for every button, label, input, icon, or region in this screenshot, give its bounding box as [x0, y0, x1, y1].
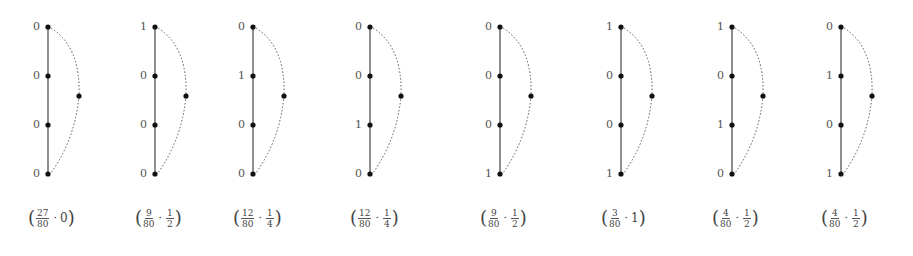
- diagram-caption: ( 3 80 ·1): [601, 207, 646, 229]
- close-paren: ): [68, 207, 75, 229]
- numerator: 9: [145, 208, 153, 219]
- node-label: 0: [135, 119, 147, 131]
- diagram-caption: ( 12 80 · 1 4 ): [350, 207, 399, 229]
- open-paren: (: [135, 207, 142, 229]
- node-4: [152, 171, 157, 176]
- open-paren: (: [480, 207, 487, 229]
- diagram-caption: ( 4 80 · 1 2 ): [712, 207, 759, 229]
- node-2: [729, 73, 734, 78]
- node-3: [152, 122, 157, 127]
- node-4: [838, 171, 843, 176]
- node-label: 1: [480, 168, 492, 180]
- denominator: 4: [384, 219, 390, 229]
- separator: ·: [624, 212, 628, 225]
- diagram-caption: ( 4 80 · 1 2 ): [821, 207, 868, 229]
- path-diagram-5: 0001( 9 80 · 1 2 ): [470, 0, 580, 256]
- value-fraction: 1 2: [166, 208, 174, 229]
- path-diagram-2: 1000( 9 80 · 1 2 ): [125, 0, 235, 256]
- dotted-arc: [373, 28, 401, 173]
- node-label: 0: [233, 119, 245, 131]
- close-paren: ): [520, 207, 527, 229]
- node-1: [497, 24, 502, 29]
- separator: ·: [53, 212, 57, 225]
- node-label: 1: [821, 70, 833, 82]
- node-label: 0: [712, 70, 724, 82]
- probability-fraction: 12 80: [358, 208, 371, 229]
- node-label: 1: [350, 119, 362, 131]
- close-paren: ): [639, 207, 646, 229]
- node-4: [729, 171, 734, 176]
- open-paren: (: [601, 207, 608, 229]
- node-2: [45, 73, 50, 78]
- side-node: [76, 93, 81, 98]
- node-label: 1: [601, 21, 613, 33]
- numerator: 12: [241, 208, 254, 219]
- path-diagram-1: 0000( 27 80 ·0): [18, 0, 128, 256]
- denominator: 80: [720, 219, 731, 229]
- node-3: [729, 122, 734, 127]
- denominator: 2: [853, 219, 859, 229]
- separator: ·: [503, 212, 507, 225]
- denominator: 80: [829, 219, 840, 229]
- node-label: 1: [821, 168, 833, 180]
- separator: ·: [258, 212, 262, 225]
- node-label: 0: [28, 119, 40, 131]
- value-fraction: 1 4: [383, 208, 391, 229]
- open-paren: (: [28, 207, 35, 229]
- denominator: 2: [167, 219, 173, 229]
- dotted-arc: [158, 28, 186, 173]
- node-label: 0: [28, 21, 40, 33]
- node-4: [618, 171, 623, 176]
- denominator: 80: [37, 219, 48, 229]
- node-label: 0: [712, 168, 724, 180]
- dotted-arc: [735, 28, 763, 173]
- diagram-caption: ( 9 80 · 1 2 ): [480, 207, 527, 229]
- probability-fraction: 9 80: [143, 208, 154, 229]
- separator: ·: [375, 212, 379, 225]
- node-label: 0: [480, 21, 492, 33]
- node-label: 1: [712, 21, 724, 33]
- node-2: [250, 73, 255, 78]
- node-label: 1: [135, 21, 147, 33]
- node-label: 0: [350, 21, 362, 33]
- open-paren: (: [712, 207, 719, 229]
- node-2: [497, 73, 502, 78]
- node-1: [367, 24, 372, 29]
- denominator: 80: [488, 219, 499, 229]
- separator: ·: [735, 212, 739, 225]
- diagram-caption: ( 9 80 · 1 2 ): [135, 207, 182, 229]
- path-diagram-7: 1010( 4 80 · 1 2 ): [702, 0, 812, 256]
- node-label: 0: [28, 70, 40, 82]
- numerator: 1: [852, 208, 860, 219]
- numerator: 27: [36, 208, 49, 219]
- node-2: [838, 73, 843, 78]
- node-label: 1: [233, 70, 245, 82]
- node-label: 0: [601, 119, 613, 131]
- side-node: [528, 93, 533, 98]
- diagram-caption: ( 27 80 ·0): [28, 207, 75, 229]
- node-label: 0: [601, 70, 613, 82]
- probability-fraction: 9 80: [488, 208, 499, 229]
- probability-fraction: 27 80: [36, 208, 49, 229]
- side-node: [869, 93, 874, 98]
- node-4: [497, 171, 502, 176]
- node-label: 0: [233, 21, 245, 33]
- node-label: 0: [821, 21, 833, 33]
- node-label: 0: [821, 119, 833, 131]
- node-label: 0: [28, 168, 40, 180]
- numerator: 4: [722, 208, 730, 219]
- value: 0: [60, 211, 68, 225]
- numerator: 1: [743, 208, 751, 219]
- probability-fraction: 4 80: [829, 208, 840, 229]
- close-paren: ): [175, 207, 182, 229]
- close-paren: ): [861, 207, 868, 229]
- value-fraction: 1 2: [743, 208, 751, 229]
- node-label: 0: [233, 168, 245, 180]
- node-3: [250, 122, 255, 127]
- denominator: 80: [359, 219, 370, 229]
- diagram-caption: ( 12 80 · 1 4 ): [233, 207, 282, 229]
- numerator: 1: [511, 208, 519, 219]
- side-node: [183, 93, 188, 98]
- denominator: 80: [242, 219, 253, 229]
- open-paren: (: [821, 207, 828, 229]
